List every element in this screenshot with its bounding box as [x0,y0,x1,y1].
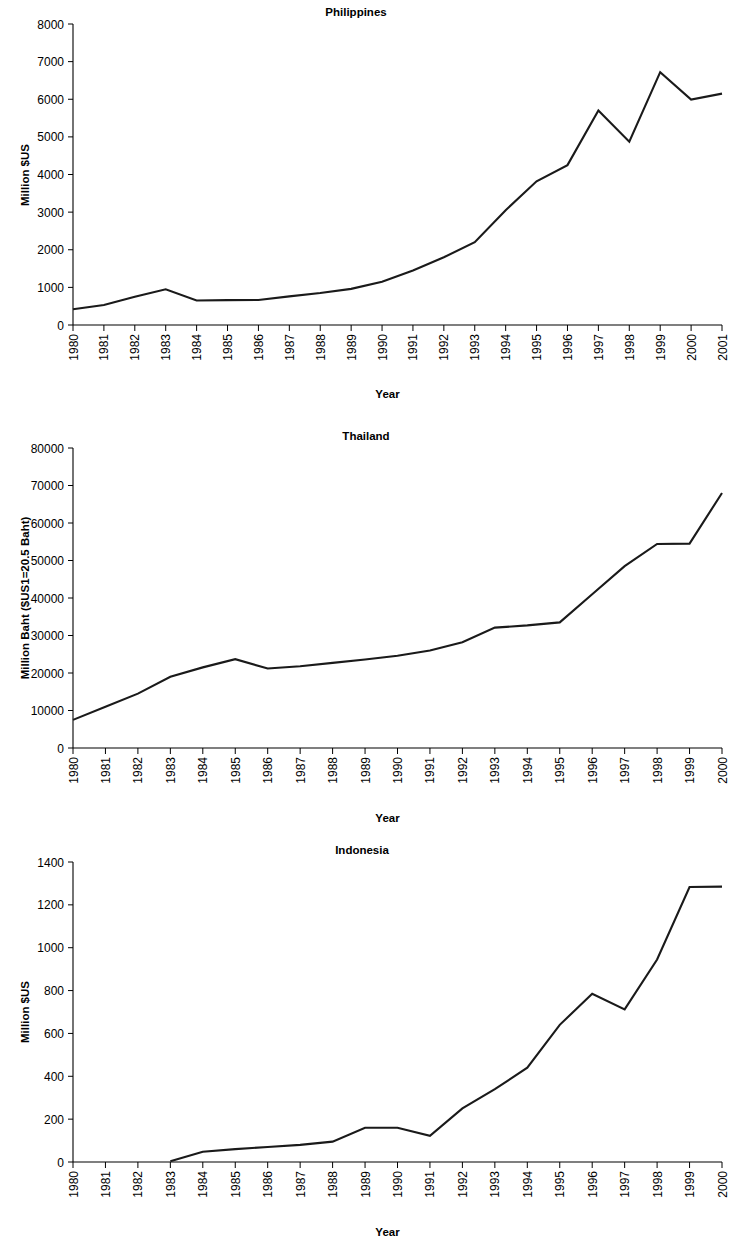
x-tick-label: 1989 [345,334,359,361]
x-tick-label: 1988 [314,334,328,361]
chart-indonesia: Indonesia0200400600800100012001400198019… [0,832,730,1247]
x-tick-label: 1997 [618,1171,632,1198]
x-tick-label: 1982 [131,757,145,784]
x-tick-label: 1980 [67,757,81,784]
series-line [73,493,722,720]
x-tick-label: 1987 [294,1171,308,1198]
x-tick-label: 1983 [164,1171,178,1198]
x-tick-label: 1988 [326,757,340,784]
x-axis-title: Year [375,1226,400,1238]
y-tick-label: 600 [44,1027,64,1041]
figure-sheet: Philippines01000200030004000500060007000… [0,0,730,1249]
chart-thailand: Thailand01000020000300004000050000600007… [0,418,730,833]
x-tick-label: 1998 [623,334,637,361]
y-axis-title: Million Baht ($US1=20.5 Baht) [19,517,31,680]
x-tick-label: 1986 [252,334,266,361]
x-tick-label: 1984 [190,334,204,361]
x-tick-label: 1982 [128,334,142,361]
y-tick-label: 4000 [37,168,64,182]
y-tick-label: 50000 [31,554,65,568]
x-tick-label: 1985 [229,757,243,784]
y-tick-label: 400 [44,1070,64,1084]
x-tick-label: 1990 [391,1171,405,1198]
y-tick-label: 1200 [37,898,64,912]
x-tick-label: 1996 [586,757,600,784]
x-tick-label: 1993 [468,334,482,361]
x-tick-label: 1998 [651,1171,665,1198]
x-tick-label: 1994 [499,334,513,361]
x-tick-label: 1998 [651,757,665,784]
x-tick-label: 2000 [716,757,730,784]
x-tick-label: 1997 [592,334,606,361]
x-tick-label: 1980 [67,1171,81,1198]
x-tick-label: 1983 [159,334,173,361]
y-tick-label: 2000 [37,243,64,257]
x-axis-title: Year [375,388,400,400]
y-tick-label: 80000 [31,442,65,456]
series-line [73,72,722,309]
x-tick-label: 2001 [716,334,730,361]
x-tick-label: 1990 [391,757,405,784]
x-tick-label: 1989 [359,1171,373,1198]
y-tick-label: 7000 [37,55,64,69]
x-tick-label: 1986 [261,1171,275,1198]
chart-title: Thailand [342,430,389,442]
x-tick-label: 1992 [456,1171,470,1198]
y-tick-label: 1000 [37,281,64,295]
x-tick-label: 1994 [521,757,535,784]
x-tick-label: 1988 [326,1171,340,1198]
chart-philippines: Philippines01000200030004000500060007000… [0,0,730,415]
x-tick-label: 1999 [654,334,668,361]
x-tick-label: 1991 [423,757,437,784]
chart-title: Philippines [325,6,386,18]
y-tick-label: 1000 [37,941,64,955]
x-tick-label: 1995 [553,1171,567,1198]
y-tick-label: 0 [57,319,64,333]
x-tick-label: 1985 [229,1171,243,1198]
y-tick-label: 10000 [31,704,65,718]
x-tick-label: 2000 [716,1171,730,1198]
x-tick-label: 1985 [221,334,235,361]
x-tick-label: 1981 [99,757,113,784]
chart-canvas: Thailand01000020000300004000050000600007… [0,418,730,833]
y-axis-title: Million $US [19,981,31,1043]
x-tick-label: 1996 [586,1171,600,1198]
x-tick-label: 1991 [423,1171,437,1198]
x-tick-label: 1981 [97,334,111,361]
x-tick-label: 1984 [196,1171,210,1198]
x-tick-label: 1987 [294,757,308,784]
y-tick-label: 800 [44,984,64,998]
y-tick-label: 6000 [37,93,64,107]
y-tick-label: 8000 [37,18,64,32]
x-tick-label: 1982 [131,1171,145,1198]
x-tick-label: 1990 [376,334,390,361]
y-tick-label: 70000 [31,479,65,493]
y-axis-title: Million $US [19,144,31,206]
y-tick-label: 0 [57,742,64,756]
x-tick-label: 1995 [553,757,567,784]
x-tick-label: 1999 [683,1171,697,1198]
x-tick-label: 1993 [488,1171,502,1198]
x-tick-label: 1980 [67,334,81,361]
x-tick-label: 1984 [196,757,210,784]
chart-canvas: Philippines01000200030004000500060007000… [0,0,730,415]
y-tick-label: 60000 [31,517,65,531]
y-tick-label: 5000 [37,130,64,144]
y-tick-label: 200 [44,1113,64,1127]
x-tick-label: 1996 [561,334,575,361]
x-tick-label: 1981 [99,1171,113,1198]
x-tick-label: 1992 [437,334,451,361]
x-tick-label: 1989 [359,757,373,784]
x-tick-label: 1997 [618,757,632,784]
x-tick-label: 1995 [530,334,544,361]
series-line [170,887,722,1162]
x-tick-label: 1993 [488,757,502,784]
y-tick-label: 0 [57,1156,64,1170]
chart-title: Indonesia [335,844,389,856]
x-axis-title: Year [375,812,400,824]
x-tick-label: 1986 [261,757,275,784]
x-tick-label: 1994 [521,1171,535,1198]
x-tick-label: 1991 [406,334,420,361]
chart-canvas: Indonesia0200400600800100012001400198019… [0,832,730,1247]
x-tick-label: 2000 [685,334,699,361]
